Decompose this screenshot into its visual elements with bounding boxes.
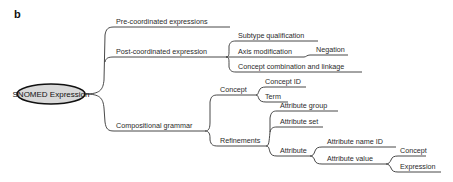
node-pre-coordinated: Pre-coordinated expressions (116, 17, 208, 26)
root-node: SNOMED Expression (13, 84, 90, 104)
node-negation: Negation (316, 45, 345, 54)
snomed-expression-mindmap: b SNOMED Expression Pre-coordinated expr… (0, 0, 453, 182)
node-concept: Concept (220, 85, 247, 94)
node-attribute-set: Attribute set (280, 117, 318, 126)
panel-label: b (14, 8, 21, 20)
node-attribute-name-id: Attribute name ID (327, 137, 383, 146)
root-label: SNOMED Expression (13, 90, 90, 99)
node-concept-id: Concept ID (265, 77, 301, 86)
node-attribute: Attribute (280, 146, 307, 155)
node-av-concept: Concept (400, 146, 427, 155)
node-refinements: Refinements (220, 136, 261, 145)
node-subtype-qualification: Subtype qualification (238, 31, 304, 40)
node-compositional-grammar: Compositional grammar (116, 121, 193, 130)
edges-concept (256, 87, 306, 102)
node-av-expression: Expression (400, 162, 436, 171)
node-concept-combination: Concept combination and linkage (238, 62, 344, 71)
node-post-coordinated: Post-coordinated expression (116, 47, 207, 56)
node-attribute-group: Attribute group (280, 101, 327, 110)
node-attribute-value: Attribute value (327, 154, 373, 163)
edges-level1 (85, 27, 230, 131)
node-axis-modification: Axis modification (238, 47, 292, 56)
node-term: Term (265, 92, 281, 101)
